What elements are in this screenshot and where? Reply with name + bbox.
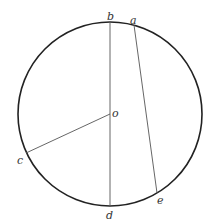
label-c: c	[17, 154, 23, 167]
label-e: e	[157, 194, 164, 207]
label-d: d	[106, 209, 113, 222]
label-o: o	[112, 107, 119, 120]
label-b: b	[107, 10, 114, 23]
circle-diagram: b a o c d e	[0, 0, 216, 222]
chord-ae	[134, 25, 157, 193]
label-a: a	[130, 14, 137, 27]
radius-oc	[26, 114, 110, 153]
